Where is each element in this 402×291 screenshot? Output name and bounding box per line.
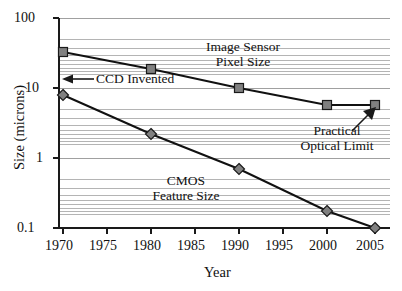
x-tick-label-1985: 1985 bbox=[177, 239, 205, 253]
y-tick-label-100: 100 bbox=[14, 11, 35, 25]
annotation-ccd-invented: CCD Invented bbox=[96, 72, 196, 87]
data-point-marker bbox=[322, 206, 333, 217]
data-point-marker bbox=[235, 84, 244, 93]
annotation-cmos-feature-size: CMOS Feature Size bbox=[136, 174, 236, 203]
annotation-image-sensor-line1: Image Sensor bbox=[185, 40, 301, 55]
data-point-marker bbox=[234, 164, 245, 175]
annotation-image-sensor-line2: Pixel Size bbox=[185, 55, 301, 70]
annotation-ccd-invented-label: CCD Invented bbox=[96, 72, 196, 87]
annotation-cmos-line1: CMOS bbox=[136, 174, 236, 189]
y-tick-label-0.1: 0.1 bbox=[17, 221, 35, 235]
x-tick-label-1975: 1975 bbox=[89, 239, 117, 253]
x-tick-label-1995: 1995 bbox=[265, 239, 293, 253]
data-point-marker bbox=[323, 101, 332, 110]
data-point-marker bbox=[59, 48, 68, 57]
x-tick-label-2005: 2005 bbox=[356, 239, 384, 253]
y-axis-title: Size (microns) bbox=[12, 85, 27, 170]
annotation-practical-line1: Practical bbox=[283, 124, 391, 139]
annotation-practical-optical-limit: Practical Optical Limit bbox=[283, 124, 391, 153]
data-point-marker bbox=[370, 223, 381, 234]
x-axis-title: Year bbox=[204, 265, 231, 280]
x-tick-label-2000: 2000 bbox=[309, 239, 337, 253]
x-tick-label-1980: 1980 bbox=[133, 239, 161, 253]
ccd-invented-arrow-icon bbox=[62, 75, 94, 84]
x-tick-label-1990: 1990 bbox=[221, 239, 249, 253]
x-tick-marks bbox=[63, 228, 375, 234]
annotation-cmos-line2: Feature Size bbox=[136, 189, 236, 204]
y-tick-label-10: 10 bbox=[25, 81, 39, 95]
chart-figure: 100 10 1 0.1 Size (microns) 1970 1975 19… bbox=[0, 0, 402, 291]
annotation-practical-line2: Optical Limit bbox=[283, 139, 391, 154]
x-tick-label-1970: 1970 bbox=[45, 239, 73, 253]
annotation-image-sensor-pixel-size: Image Sensor Pixel Size bbox=[185, 40, 301, 69]
y-tick-label-1: 1 bbox=[36, 151, 43, 165]
